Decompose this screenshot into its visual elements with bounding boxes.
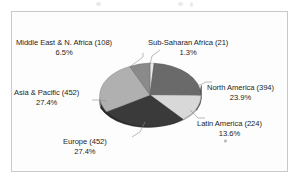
slice-label-percent: 13.6% [197, 129, 262, 139]
slice-label-asia-pacific: Asia & Pacific (452) 27.4% [14, 88, 79, 107]
slice-label-name: Sub-Saharan Africa (21) [148, 38, 228, 48]
slice-label-percent: 1.3% [148, 48, 228, 58]
pie-chart-figure: Middle East & N. Africa (108) 6.5% Sub-S… [0, 0, 300, 184]
slice-label-europe: Europe (452) 27.4% [63, 137, 107, 156]
slice-label-name: Europe (452) [63, 137, 107, 147]
slice-label-percent: 27.4% [63, 147, 107, 157]
slice-label-name: North America (394) [207, 83, 274, 93]
slice-label-middle-east-north-africa: Middle East & N. Africa (108) 6.5% [16, 38, 112, 57]
slice-label-name: Latin America (224) [197, 119, 262, 129]
scan-artifact-mark: # [224, 138, 227, 144]
slice-north-america [150, 63, 201, 95]
pie-top-face [100, 63, 201, 127]
slice-label-percent: 27.4% [14, 98, 79, 108]
slice-label-percent: 23.9% [207, 93, 274, 103]
slice-label-name: Middle East & N. Africa (108) [16, 38, 112, 48]
slice-label-north-america: North America (394) 23.9% [207, 83, 274, 102]
slice-label-percent: 6.5% [16, 48, 112, 58]
slice-label-latin-america: Latin America (224) 13.6% [197, 119, 262, 138]
slice-label-name: Asia & Pacific (452) [14, 88, 79, 98]
slice-label-sub-saharan-africa: Sub-Saharan Africa (21) 1.3% [148, 38, 228, 57]
